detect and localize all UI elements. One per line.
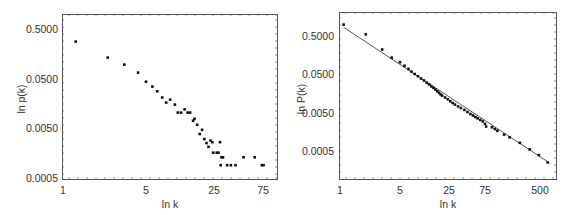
data-point xyxy=(451,102,454,105)
data-point xyxy=(463,109,466,112)
data-point xyxy=(519,142,522,145)
data-point xyxy=(546,161,549,164)
data-point xyxy=(481,120,484,123)
data-point xyxy=(466,111,469,114)
data-point xyxy=(420,77,423,80)
data-point xyxy=(479,119,482,122)
data-point xyxy=(457,105,460,108)
scatter-plot-area xyxy=(0,0,574,215)
data-point xyxy=(390,56,393,59)
data-point xyxy=(425,81,428,84)
data-point xyxy=(538,154,541,157)
data-point xyxy=(494,128,497,131)
x-tick-label: 1 xyxy=(337,184,343,196)
x-tick-label: 500 xyxy=(531,184,549,196)
data-point xyxy=(365,33,368,36)
data-point xyxy=(444,96,447,99)
data-point xyxy=(403,65,406,68)
data-point xyxy=(474,116,477,119)
data-point xyxy=(407,68,410,71)
data-point xyxy=(342,23,345,26)
data-point xyxy=(491,126,494,129)
data-point xyxy=(484,123,487,126)
data-point xyxy=(508,136,511,139)
data-point xyxy=(423,79,426,82)
data-point xyxy=(413,73,416,76)
data-point xyxy=(496,130,499,133)
data-point xyxy=(441,94,444,97)
data-point xyxy=(472,114,475,117)
x-tick-label: 25 xyxy=(443,184,455,196)
data-point xyxy=(454,103,457,106)
data-point xyxy=(449,100,452,103)
x-axis-label: ln k xyxy=(440,198,456,210)
data-point xyxy=(528,148,531,151)
data-point xyxy=(460,107,463,110)
data-point xyxy=(417,75,420,78)
data-point xyxy=(447,98,450,101)
data-point xyxy=(485,125,488,128)
data-point xyxy=(410,70,413,73)
data-point xyxy=(503,133,506,136)
x-tick-label: 75 xyxy=(479,184,491,196)
x-tick-label: 5 xyxy=(397,184,403,196)
data-point xyxy=(476,117,479,120)
data-point xyxy=(399,61,402,64)
data-point xyxy=(381,48,384,51)
data-point xyxy=(469,113,472,116)
